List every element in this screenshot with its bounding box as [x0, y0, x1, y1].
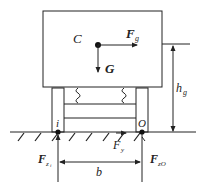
inner-point-label: i [56, 117, 59, 129]
inner-contact-point [55, 129, 60, 134]
force-y-subscript: y [120, 146, 125, 154]
right-spring [122, 88, 126, 103]
ground-hatching [18, 133, 140, 141]
vehicle-body [43, 11, 162, 87]
height-subscript: g [183, 88, 187, 97]
force-zo-label: F [149, 152, 158, 166]
vehicle-rollover-diagram: C F g G h g F y i O F z i F zO b [0, 0, 201, 191]
force-g-label: F [125, 26, 135, 41]
center-label: C [73, 31, 82, 46]
outer-contact-point [139, 129, 144, 134]
gravity-label: G [105, 61, 115, 76]
outer-point-label: O [138, 117, 146, 129]
left-spring [76, 88, 80, 103]
height-label: h [176, 81, 182, 95]
force-zi-subscript-2: i [50, 163, 52, 168]
force-g-subscript: g [135, 34, 139, 43]
force-zi-label: F [37, 152, 46, 166]
force-zo-subscript: zO [157, 160, 166, 168]
track-label: b [96, 165, 102, 179]
force-y-label: F [112, 138, 121, 152]
force-zi-subscript: z [45, 160, 49, 168]
